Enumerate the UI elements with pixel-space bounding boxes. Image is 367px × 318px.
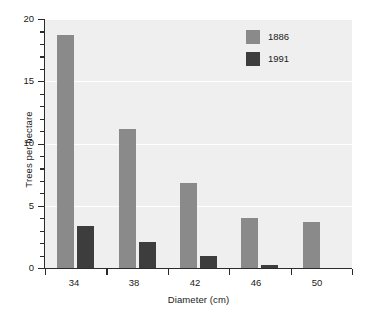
- y-tick-minor-11: [40, 131, 45, 132]
- y-tick-label-0: 0: [0, 262, 34, 273]
- x-tick-3: [229, 269, 230, 275]
- gridline-y-10: [45, 144, 352, 145]
- x-tick-4: [291, 269, 292, 275]
- y-tick-minor-8: [40, 168, 45, 169]
- y-tick-minor-1: [40, 256, 45, 257]
- y-tick-label-10: 10: [0, 137, 34, 148]
- gridline-y-15: [45, 81, 352, 82]
- y-tick-minor-13: [40, 106, 45, 107]
- bar-chart: Trees per hectare 20 15 10 5 0 34 38 42 …: [0, 0, 367, 318]
- legend-swatch-1991: [246, 52, 260, 66]
- x-tick-5: [352, 269, 353, 275]
- x-tick-label-46: 46: [236, 277, 276, 288]
- bar-1886-34: [57, 35, 74, 268]
- gridline-y-20: [45, 19, 352, 20]
- x-tick-0: [45, 269, 46, 275]
- bar-1886-50: [303, 222, 320, 268]
- y-tick-minor-3: [40, 231, 45, 232]
- y-tick-minor-12: [40, 119, 45, 120]
- y-tick-minor-19: [40, 31, 45, 32]
- y-tick-minor-4: [40, 218, 45, 219]
- x-tick-label-42: 42: [175, 277, 215, 288]
- y-tick-minor-18: [40, 44, 45, 45]
- bar-1886-38: [119, 129, 136, 268]
- y-tick-minor-17: [40, 56, 45, 57]
- y-tick-label-20: 20: [0, 13, 34, 24]
- y-axis-title: Trees per hectare: [23, 80, 34, 220]
- bar-1991-38: [139, 242, 156, 268]
- x-tick-label-34: 34: [54, 277, 94, 288]
- x-axis-line: [44, 268, 352, 269]
- legend-label-1991: 1991: [268, 52, 289, 66]
- bar-1991-34: [77, 226, 94, 268]
- y-tick-15: [38, 81, 45, 82]
- gridline-y-5: [45, 206, 352, 207]
- bar-1886-42: [180, 183, 197, 268]
- y-tick-minor-6: [40, 193, 45, 194]
- y-tick-minor-9: [40, 156, 45, 157]
- plot-area: [45, 19, 352, 268]
- bar-1886-46: [241, 218, 258, 268]
- bar-1991-42: [200, 256, 217, 268]
- y-tick-label-15: 15: [0, 75, 34, 86]
- y-tick-minor-7: [40, 181, 45, 182]
- y-tick-5: [38, 206, 45, 207]
- y-tick-minor-16: [40, 69, 45, 70]
- x-tick-label-50: 50: [297, 277, 337, 288]
- y-tick-20: [38, 19, 45, 20]
- legend-swatch-1886: [246, 30, 260, 44]
- y-tick-minor-14: [40, 94, 45, 95]
- y-tick-label-5: 5: [0, 200, 34, 211]
- x-tick-2: [168, 269, 169, 275]
- y-tick-10: [38, 144, 45, 145]
- legend-label-1886: 1886: [268, 30, 289, 44]
- x-tick-label-38: 38: [114, 277, 154, 288]
- x-axis-title: Diameter (cm): [45, 294, 352, 305]
- x-tick-1: [106, 269, 107, 275]
- y-tick-minor-2: [40, 243, 45, 244]
- y-tick-0: [38, 268, 45, 269]
